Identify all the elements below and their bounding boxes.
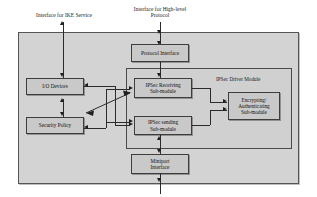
arrowhead-encrypting-in-bottom	[223, 107, 227, 111]
connector-diagonal-security-policy-receiving	[0, 0, 317, 197]
connector-sending-right-rise	[210, 110, 211, 125]
connector-receiving-right-drop	[210, 88, 211, 102]
connector-receiving-right-out	[192, 88, 210, 89]
arrowhead-encrypting-in-top	[223, 99, 227, 103]
diagram-canvas: Interface for IKE Service Interface for …	[0, 0, 317, 197]
connector-sending-right-out	[192, 125, 210, 126]
